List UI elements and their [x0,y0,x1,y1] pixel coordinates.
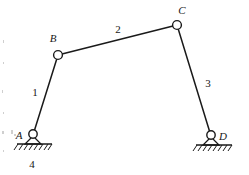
link-label-3: 3 [205,77,211,89]
pin-joint-C [173,21,182,30]
joint-label-C: C [178,4,186,16]
joint-label-B: B [50,32,57,44]
link-label-2: 2 [115,23,121,35]
four-bar-linkage-figure: A B C D 1 2 3 4 [0,0,249,175]
ground-hatching-A [14,144,52,150]
pin-joint-B [54,51,63,60]
link-label-1: 1 [32,86,38,98]
linkage-diagram-canvas: A B C D 1 2 3 4 [0,0,249,175]
joint-label-D: D [218,130,227,142]
joint-label-A: A [15,129,23,141]
pin-joint-A [29,130,37,138]
link-label-4: 4 [29,158,35,170]
linkage-bars [33,25,211,136]
ground-hatching-D [193,145,232,151]
pin-joint-D [207,131,215,139]
scan-artifacts [2,40,16,152]
